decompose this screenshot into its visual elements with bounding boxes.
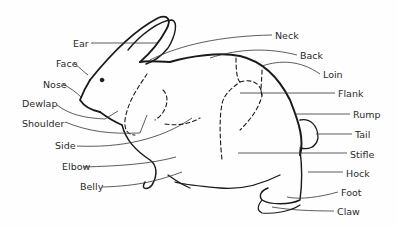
label-claw: Claw (337, 207, 360, 217)
rabbit-illustration (0, 0, 398, 227)
label-foot: Foot (341, 188, 361, 198)
label-side: Side (55, 141, 76, 151)
label-ear: Ear (73, 39, 89, 49)
label-stifle: Stifle (350, 150, 374, 160)
label-tail: Tail (355, 130, 370, 140)
label-face: Face (56, 59, 77, 69)
rabbit-anatomy-diagram: Ear Face Nose Dewlap Shoulder Side Elbow… (0, 0, 398, 227)
label-back: Back (300, 51, 323, 61)
label-loin: Loin (323, 70, 343, 80)
label-shoulder: Shoulder (22, 119, 64, 129)
label-rump: Rump (353, 110, 380, 120)
label-neck: Neck (275, 31, 299, 41)
label-belly: Belly (80, 182, 103, 192)
label-nose: Nose (43, 80, 67, 90)
label-elbow: Elbow (62, 162, 90, 172)
label-dewlap: Dewlap (22, 99, 57, 109)
label-hock: Hock (346, 169, 370, 179)
label-flank: Flank (338, 89, 363, 99)
